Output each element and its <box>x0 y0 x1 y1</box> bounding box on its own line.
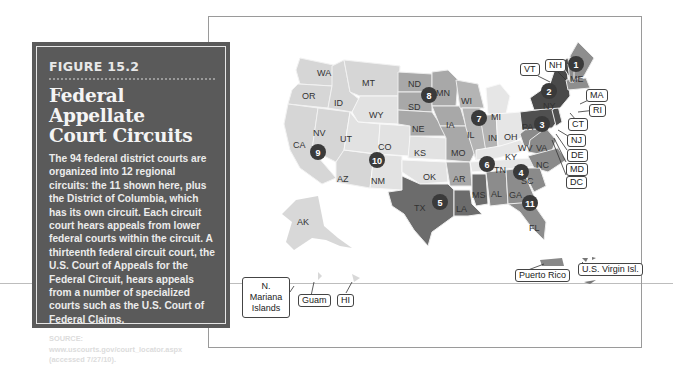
label-mo: MO <box>451 148 466 158</box>
label-wy: WY <box>369 110 384 120</box>
label-az: AZ <box>337 174 349 184</box>
callout-puerto-rico: Puerto Rico <box>515 269 570 282</box>
figure-title-line2: Court Circuits <box>49 125 192 146</box>
label-id: ID <box>334 98 344 108</box>
puerto-rico-shape <box>540 258 564 266</box>
svg-text:6: 6 <box>484 160 489 170</box>
label-in: IN <box>488 133 497 143</box>
callout-ma: MA <box>586 89 608 102</box>
label-oh: OH <box>504 132 518 142</box>
circuit-marker-9: 9 <box>310 144 326 160</box>
hawaii-shape <box>352 274 360 282</box>
label-ca: CA <box>293 140 306 150</box>
label-ak: AK <box>297 217 309 227</box>
circuit-marker-3: 3 <box>534 116 550 132</box>
label-il: IL <box>467 130 475 140</box>
label-ny: NY <box>543 101 556 111</box>
label-la: LA <box>456 204 467 214</box>
label-sd: SD <box>408 102 421 112</box>
source-line2: (accessed 7/27/10). <box>49 355 116 364</box>
callout-md: MD <box>566 163 588 176</box>
circuit-marker-2: 2 <box>541 83 557 99</box>
callout-dc: DC <box>566 176 587 189</box>
label-nv: NV <box>313 128 326 138</box>
label-fl: FL <box>529 223 540 233</box>
svg-text:3: 3 <box>539 120 544 130</box>
label-mi: MI <box>491 112 501 122</box>
svg-text:8: 8 <box>426 91 431 101</box>
callout-hi: HI <box>337 294 354 307</box>
svg-text:11: 11 <box>525 199 535 209</box>
label-ms: MS <box>472 190 486 200</box>
callout-de: DE <box>567 149 588 162</box>
label-ok: OK <box>423 172 436 182</box>
label-ky: KY <box>505 152 517 162</box>
label-mn: MN <box>436 88 450 98</box>
label-va: VA <box>536 143 547 153</box>
label-ia: IA <box>446 120 455 130</box>
figure-info-panel-inner: FIGURE 15.2 Federal Appellate Court Circ… <box>36 46 226 324</box>
figure-number: FIGURE 15.2 <box>49 59 215 74</box>
label-nm: NM <box>371 176 385 186</box>
svg-text:4: 4 <box>518 168 523 178</box>
svg-text:10: 10 <box>372 156 382 166</box>
callout-nh: NH <box>545 59 566 72</box>
alaska-shape <box>282 196 352 250</box>
label-ut: UT <box>340 134 352 144</box>
circuit-marker-1: 1 <box>568 56 584 72</box>
label-pa: PA <box>522 122 533 132</box>
source-line1: SOURCE: www.uscourts.gov/court_locator.a… <box>49 334 182 354</box>
circuit-marker-11: 11 <box>522 195 538 211</box>
circuit-marker-10: 10 <box>369 152 385 168</box>
circuit-marker-4: 4 <box>513 164 529 180</box>
label-co: CO <box>378 142 392 152</box>
label-mt: MT <box>362 78 375 88</box>
label-nd: ND <box>408 79 421 89</box>
guam-shape <box>318 272 322 280</box>
circuit-marker-8: 8 <box>421 87 437 103</box>
label-or: OR <box>302 91 316 101</box>
circuit-marker-7: 7 <box>471 110 487 126</box>
circuit-5-region <box>388 174 488 246</box>
callout-n-mariana-islands: N. Mariana Islands <box>242 277 290 318</box>
svg-text:9: 9 <box>315 148 320 158</box>
callout-vt: VT <box>520 63 540 76</box>
callout-ri: RI <box>589 104 606 117</box>
dotted-divider <box>49 78 215 80</box>
callout-nj: NJ <box>567 134 586 147</box>
figure-description: The 94 federal district courts are organ… <box>49 152 215 326</box>
label-ks: KS <box>414 148 426 158</box>
circuit-marker-5: 5 <box>432 194 448 210</box>
svg-text:1: 1 <box>573 60 578 70</box>
figure-title: Federal Appellate Court Circuits <box>49 86 215 146</box>
label-me: ME <box>570 74 584 84</box>
svg-text:5: 5 <box>437 198 442 208</box>
svg-text:2: 2 <box>546 87 551 97</box>
figure-info-panel: FIGURE 15.2 Federal Appellate Court Circ… <box>32 42 230 328</box>
label-wv: WV <box>518 143 533 153</box>
callout-guam: Guam <box>298 294 331 307</box>
label-nc: NC <box>536 160 549 170</box>
callout-virgin-islands: U.S. Virgin Isl. <box>578 263 643 276</box>
label-ar: AR <box>453 174 466 184</box>
callout-ct: CT <box>568 118 588 131</box>
figure-source: SOURCE: www.uscourts.gov/court_locator.a… <box>49 334 215 366</box>
label-ga: GA <box>509 190 522 200</box>
label-wi: WI <box>461 96 472 106</box>
label-tx: TX <box>414 203 426 213</box>
label-al: AL <box>491 189 502 199</box>
svg-text:7: 7 <box>476 114 481 124</box>
label-ne: NE <box>412 124 425 134</box>
circuit-marker-6: 6 <box>479 156 495 172</box>
label-tn: TN <box>494 165 506 175</box>
label-wa: WA <box>317 68 331 78</box>
figure-title-line1: Federal Appellate <box>49 85 145 126</box>
